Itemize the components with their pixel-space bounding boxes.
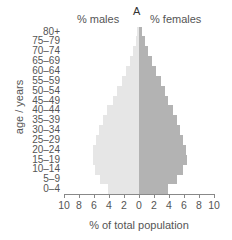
male-bar (93, 145, 139, 155)
female-bar (139, 145, 186, 155)
male-bar (95, 164, 139, 174)
x-tick-label: 8 (191, 199, 207, 211)
x-tick (64, 194, 65, 198)
male-bar (93, 155, 139, 165)
male-bar (122, 76, 139, 86)
x-tick (169, 194, 170, 198)
female-bar (139, 105, 173, 115)
x-tick (184, 194, 185, 198)
age-group-label: 15–19 (0, 155, 60, 165)
female-bar (139, 76, 161, 86)
male-bar (126, 66, 139, 76)
age-group-label: 60–64 (0, 66, 60, 76)
female-bar (139, 96, 168, 106)
x-tick (139, 194, 140, 198)
female-bar (139, 135, 183, 145)
male-bar (99, 125, 140, 135)
x-tick-label: 0 (131, 199, 147, 211)
x-tick (109, 194, 110, 198)
x-tick (214, 194, 215, 198)
male-bar (130, 56, 139, 66)
age-group-label: 25–29 (0, 135, 60, 145)
female-bar (139, 115, 177, 125)
age-group-label: 0–4 (0, 184, 60, 194)
female-bar (139, 56, 152, 66)
male-bar (107, 105, 139, 115)
age-group-label: 5–9 (0, 174, 60, 184)
x-tick (94, 194, 95, 198)
female-bar (139, 164, 183, 174)
female-bar (139, 27, 142, 37)
x-tick-label: 2 (116, 199, 132, 211)
x-tick-label: 6 (86, 199, 102, 211)
age-group-label: 75–79 (0, 36, 60, 46)
x-tick-label: 2 (146, 199, 162, 211)
females-title: % females (150, 13, 201, 25)
female-bar (139, 125, 180, 135)
age-group-label: 45–49 (0, 96, 60, 106)
x-tick (124, 194, 125, 198)
age-group-label: 80+ (0, 27, 60, 37)
x-axis-label: % of total population (89, 219, 189, 231)
age-group-label: 40–44 (0, 105, 60, 115)
x-tick-label: 8 (71, 199, 87, 211)
x-tick-label: 4 (101, 199, 117, 211)
age-group-label: 50–54 (0, 86, 60, 96)
male-bar (103, 115, 139, 125)
x-tick (199, 194, 200, 198)
age-group-label: 20–24 (0, 145, 60, 155)
x-tick-label: 4 (161, 199, 177, 211)
x-tick (154, 194, 155, 198)
x-tick-label: 6 (176, 199, 192, 211)
age-group-label: 65–69 (0, 56, 60, 66)
male-bar (100, 174, 139, 184)
male-bar (108, 184, 139, 194)
female-bar (139, 46, 148, 56)
male-bar (117, 86, 139, 96)
x-tick-label: 10 (56, 199, 72, 211)
age-group-label: 35–39 (0, 115, 60, 125)
female-bar (139, 174, 177, 184)
age-group-label: 55–59 (0, 76, 60, 86)
female-bar (139, 155, 187, 165)
female-bar (139, 66, 156, 76)
x-tick (79, 194, 80, 198)
male-bar (96, 135, 139, 145)
age-group-label: 30–34 (0, 125, 60, 135)
panel-label: A (133, 5, 140, 17)
age-group-label: 10–14 (0, 164, 60, 174)
male-bar (113, 96, 139, 106)
female-bar (139, 184, 168, 194)
female-bar (139, 36, 145, 46)
males-title: % males (77, 13, 119, 25)
x-tick-label: 10 (206, 199, 222, 211)
female-bar (139, 86, 165, 96)
age-group-label: 70–74 (0, 46, 60, 56)
